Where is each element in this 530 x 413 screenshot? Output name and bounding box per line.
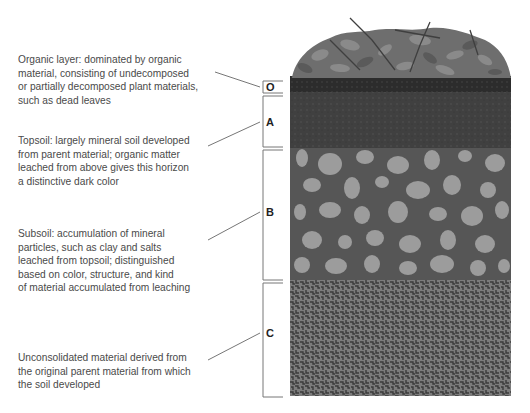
- description-line: leached from topsoil; distinguished: [18, 254, 190, 268]
- description-line: or partially decomposed plant materials,: [18, 80, 198, 94]
- a-horizon: [290, 92, 511, 148]
- description-line: the soil developed: [18, 378, 191, 392]
- description-line: leached from above gives this horizon: [18, 161, 190, 175]
- description-line: particles, such as clay and salts: [18, 241, 190, 255]
- horizon-label-c: C: [266, 327, 274, 339]
- horizon-label-o: O: [266, 81, 275, 93]
- description-line: Organic layer: dominated by organic: [18, 53, 198, 67]
- subsoil-description: Subsoil: accumulation of mineral particl…: [18, 227, 190, 295]
- description-line: from parent material; organic matter: [18, 148, 190, 162]
- description-line: based on color, structure, and kind: [18, 268, 190, 282]
- topsoil-description: Topsoil: largely mineral soil developed …: [18, 134, 190, 188]
- horizon-label-a: A: [266, 116, 274, 128]
- description-line: of material accumulated from leaching: [18, 281, 190, 295]
- organic-layer-description: Organic layer: dominated by organic mate…: [18, 53, 198, 107]
- c-horizon: [290, 280, 511, 396]
- description-line: Topsoil: largely mineral soil developed: [18, 134, 190, 148]
- parent-material-description: Unconsolidated material derived from the…: [18, 351, 191, 392]
- horizon-label-b: B: [266, 206, 274, 218]
- description-line: the original parent material from which: [18, 365, 191, 379]
- description-line: such as dead leaves: [18, 94, 198, 108]
- leaf-litter: [292, 18, 511, 78]
- description-line: a distinctive dark color: [18, 175, 190, 189]
- description-line: Subsoil: accumulation of mineral: [18, 227, 190, 241]
- description-line: Unconsolidated material derived from: [18, 351, 191, 365]
- horizon-brackets: [263, 81, 283, 397]
- o-horizon: [290, 76, 511, 92]
- description-line: material, consisting of undecomposed: [18, 67, 198, 81]
- leader-lines: [208, 72, 260, 360]
